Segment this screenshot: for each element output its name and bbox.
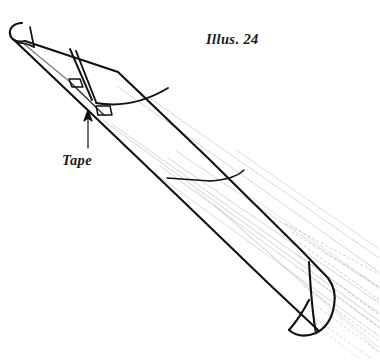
tape-piece-lower — [96, 106, 112, 115]
mouth-far-rim — [316, 278, 335, 333]
mouth-near-rim — [289, 330, 316, 335]
tape-callout-label: Tape — [62, 152, 92, 169]
cone-body-outline — [10, 23, 328, 330]
faint-guide-lines-dotted — [286, 224, 379, 359]
figure-caption: Illus. 24 — [206, 31, 259, 48]
figure-drawing — [0, 0, 380, 360]
cone-lower-edge — [13, 39, 318, 330]
tape-callout-arrow — [84, 110, 92, 148]
cone-upper-edge — [10, 23, 328, 278]
illustration-canvas: Illus. 24 Tape — [0, 0, 380, 360]
